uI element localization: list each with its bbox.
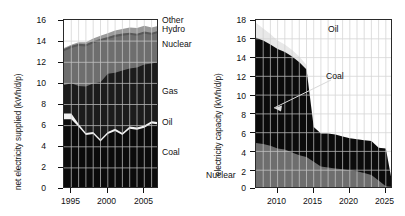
y-tick-right-18: 18 (226, 15, 246, 25)
series-label-hydro: Hydro (162, 25, 185, 35)
figure-root: net electricity supplied (kWh/d/p) 16 14… (0, 0, 405, 216)
x-tick-right-2020: 2020 (334, 196, 363, 206)
x-tick-left-2000: 2000 (92, 196, 121, 206)
y-tick-right-12: 12 (226, 72, 246, 82)
y-axis-label-right: electricity capacity (kWh/d/p) (213, 73, 223, 176)
y-tick-right-0: 0 (226, 183, 246, 193)
y-tick-right-14: 14 (226, 53, 246, 63)
x-tickmark-right-2025 (385, 188, 386, 193)
x-tickmark-left-2000 (107, 188, 108, 193)
x-tickmark-right-2015 (313, 188, 314, 193)
y-tick-right-16: 16 (226, 34, 246, 44)
x-tickmark-right-2020 (349, 188, 350, 193)
stacked-area-right (256, 20, 392, 188)
y-tick-left-12: 12 (26, 57, 46, 67)
y-tick-left-16: 16 (26, 15, 46, 25)
y-tick-right-8: 8 (226, 110, 246, 120)
y-tickmark-right-0 (250, 188, 255, 189)
y-axis-label-left: net electricity supplied (kWh/d/p) (13, 74, 23, 191)
y-tick-right-4: 4 (226, 148, 246, 158)
x-tick-left-1995: 1995 (56, 196, 85, 206)
series-label-coal: Coal (162, 148, 180, 158)
series-label-nuclear: Nuclear (162, 40, 192, 50)
plot-area-right (255, 19, 392, 188)
y-tick-right-10: 10 (226, 91, 246, 101)
x-tick-left-2005: 2005 (129, 196, 158, 206)
y-tick-left-10: 10 (26, 78, 46, 88)
x-tickmark-right-2010 (277, 188, 278, 193)
y-tick-left-2: 2 (26, 162, 46, 172)
series-label-gas: Gas (162, 87, 178, 97)
stacked-area-left (64, 20, 158, 188)
x-tickmark-left-1995 (70, 188, 71, 193)
series-label-oil: Oil (162, 118, 173, 128)
plot-area-left (63, 19, 158, 188)
y-tick-left-6: 6 (26, 120, 46, 130)
chart-panel-electricity-capacity: electricity capacity (kWh/d/p) 18 16 14 … (200, 0, 405, 216)
y-tick-left-8: 8 (26, 99, 46, 109)
y-tick-left-14: 14 (26, 36, 46, 46)
series-label-nuclear-right: Nuclear (206, 170, 236, 180)
x-tick-right-2010: 2010 (262, 196, 291, 206)
y-tick-right-6: 6 (226, 129, 246, 139)
y-tick-left-0: 0 (26, 183, 46, 193)
x-tickmark-left-2005 (143, 188, 144, 193)
x-tick-right-2015: 2015 (298, 196, 327, 206)
chart-panel-net-electricity-supplied: net electricity supplied (kWh/d/p) 16 14… (0, 0, 205, 216)
series-label-oil-right: Oil (328, 25, 339, 35)
y-tick-left-4: 4 (26, 141, 46, 151)
x-tick-right-2025: 2025 (370, 196, 399, 206)
series-label-coal-right: Coal (326, 72, 344, 82)
